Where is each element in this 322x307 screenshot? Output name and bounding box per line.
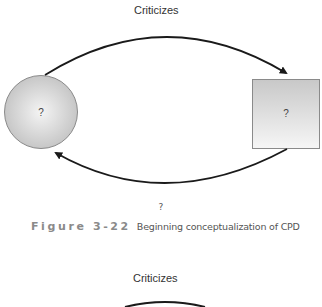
arrow-circle-to-square [45, 37, 286, 75]
arrow-square-to-circle [56, 149, 287, 183]
figure-caption-text: Beginning conceptualization of CPD [137, 221, 300, 232]
cpd-diagram: ? ? [0, 0, 322, 307]
circle-node: ? [5, 76, 78, 149]
figure-caption: Figure 3-22Beginning conceptualization o… [31, 216, 300, 234]
figure-number: Figure 3-22 [31, 220, 131, 233]
circle-node-label: ? [38, 107, 44, 118]
square-node: ? [253, 80, 320, 149]
question-mark: ? [0, 202, 322, 212]
next-figure-arc [125, 302, 205, 307]
next-edge-label-criticizes: Criticizes [133, 272, 178, 284]
square-node-label: ? [283, 108, 289, 119]
